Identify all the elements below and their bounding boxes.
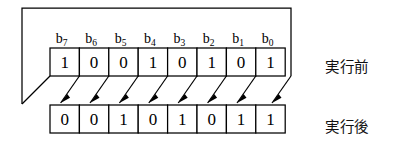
before-bit-value-b6: 0 bbox=[90, 53, 99, 72]
after-bit-value-5: 0 bbox=[207, 110, 216, 129]
after-bit-value-4: 1 bbox=[178, 110, 187, 129]
bit-label-b5-sub: 5 bbox=[122, 38, 127, 48]
shift-arrow-line-2 bbox=[90, 76, 109, 103]
shift-arrow-line-3 bbox=[119, 76, 138, 103]
bit-label-b4-sub: 4 bbox=[151, 38, 156, 48]
bit-label-b6: b6 bbox=[85, 31, 97, 48]
bit-label-b2: b2 bbox=[203, 31, 215, 48]
bit-label-b1-base: b bbox=[232, 31, 239, 46]
bit-label-b3-base: b bbox=[173, 31, 180, 46]
before-bit-value-b7: 1 bbox=[60, 53, 69, 72]
after-bit-value-2: 1 bbox=[119, 110, 128, 129]
bit-label-b1-sub: 1 bbox=[239, 38, 244, 48]
before-bit-value-b4: 1 bbox=[149, 53, 158, 72]
bit-label-b5-base: b bbox=[115, 31, 122, 46]
before-bit-value-b5: 0 bbox=[119, 53, 128, 72]
bit-label-b3: b3 bbox=[173, 31, 185, 48]
shift-register-figure: 1 0 0 1 0 1 0 1 b7 b6 b5 b4 b3 bbox=[0, 0, 411, 152]
bit-index-label-row: b7 b6 b5 b4 b3 b2 b1 b0 bbox=[56, 31, 274, 48]
after-bit-value-7: 1 bbox=[266, 110, 275, 129]
bit-label-b7-base: b bbox=[56, 31, 63, 46]
after-bit-value-1: 0 bbox=[90, 110, 99, 129]
shift-arrows-group bbox=[61, 76, 256, 103]
bit-label-b7: b7 bbox=[56, 31, 68, 48]
shift-arrow-line-4 bbox=[149, 76, 168, 103]
bit-label-b1: b1 bbox=[232, 31, 244, 48]
bit-label-b6-sub: 6 bbox=[92, 38, 97, 48]
bit-label-b2-base: b bbox=[203, 31, 210, 46]
bit-label-b6-base: b bbox=[85, 31, 92, 46]
carry-wrap-left-segment bbox=[22, 76, 50, 104]
bit-label-b4: b4 bbox=[144, 31, 156, 48]
before-bit-value-b2: 1 bbox=[207, 53, 216, 72]
after-execution-label: 実行後 bbox=[325, 115, 369, 136]
before-bit-value-b1: 0 bbox=[237, 53, 246, 72]
before-row-group: 1 0 0 1 0 1 0 1 bbox=[50, 48, 285, 76]
bit-label-b3-sub: 3 bbox=[180, 38, 185, 48]
shift-arrow-line-7 bbox=[237, 76, 256, 103]
before-execution-label: 実行前 bbox=[325, 55, 369, 76]
bit-label-b0: b0 bbox=[262, 31, 274, 48]
after-bit-value-3: 0 bbox=[149, 110, 158, 129]
carry-wrap-right-arrow-line bbox=[272, 76, 291, 103]
shift-arrow-line-5 bbox=[178, 76, 197, 103]
bit-label-b5: b5 bbox=[115, 31, 127, 48]
shift-arrow-line-1 bbox=[61, 76, 80, 103]
bit-label-b2-sub: 2 bbox=[210, 38, 215, 48]
after-bit-value-6: 1 bbox=[237, 110, 246, 129]
before-bit-value-b0: 1 bbox=[266, 53, 275, 72]
before-bit-value-b3: 0 bbox=[178, 53, 187, 72]
bit-label-b0-sub: 0 bbox=[269, 38, 274, 48]
bit-label-b4-base: b bbox=[144, 31, 151, 46]
after-row-group: 0 0 1 0 1 0 1 1 bbox=[50, 105, 285, 133]
shift-arrow-line-6 bbox=[208, 76, 227, 103]
bit-label-b0-base: b bbox=[262, 31, 269, 46]
bit-label-b7-sub: 7 bbox=[63, 38, 68, 48]
after-bit-value-0: 0 bbox=[60, 110, 69, 129]
